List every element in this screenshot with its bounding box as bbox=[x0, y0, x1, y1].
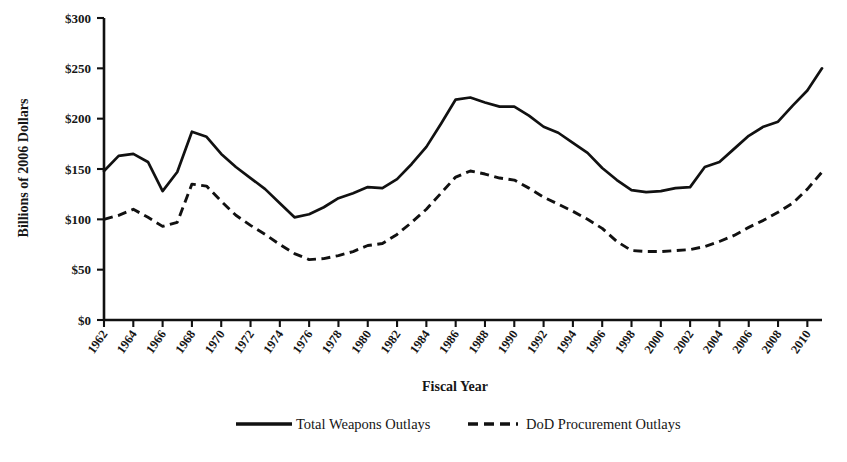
x-axis-tick-label: 2010 bbox=[788, 328, 814, 357]
series-line-total-weapons-outlays bbox=[104, 68, 822, 217]
x-axis-tick-label: 1996 bbox=[583, 328, 609, 357]
x-axis-tick-label: 1966 bbox=[143, 328, 169, 357]
x-axis-tick-label: 1976 bbox=[290, 328, 316, 357]
x-axis-tick-label: 1970 bbox=[202, 328, 228, 357]
x-axis-tick-label: 1998 bbox=[612, 328, 638, 357]
x-axis-tick-label: 2004 bbox=[700, 327, 726, 356]
x-axis-tick-label: 1964 bbox=[114, 327, 140, 356]
x-axis-tick-labels: 1962196419661968197019721974197619781980… bbox=[85, 327, 814, 356]
y-axis-tick-label: $200 bbox=[65, 111, 91, 126]
y-axis-tick-labels: $0$50$100$150$200$250$300 bbox=[65, 11, 91, 328]
x-axis-tick-label: 1982 bbox=[378, 328, 404, 357]
x-axis-tick-label: 2008 bbox=[759, 328, 785, 357]
series-line-dod-procurement-outlays bbox=[104, 171, 822, 260]
x-axis-tick-label: 2006 bbox=[729, 328, 755, 357]
x-axis-tick-label: 1962 bbox=[85, 328, 111, 357]
y-axis-tick-label: $100 bbox=[65, 212, 91, 227]
y-axis-tick-label: $150 bbox=[65, 162, 91, 177]
legend-label-dod-procurement-outlays: DoD Procurement Outlays bbox=[526, 416, 681, 432]
x-axis-tick-label: 1978 bbox=[319, 328, 345, 357]
legend-label-total-weapons-outlays: Total Weapons Outlays bbox=[296, 416, 431, 432]
x-axis-tick-label: 2000 bbox=[641, 328, 667, 357]
x-axis-tick-label: 1980 bbox=[348, 328, 374, 357]
x-axis-tick-label: 1988 bbox=[466, 328, 492, 357]
y-axis-tick-label: $50 bbox=[72, 262, 92, 277]
x-axis-tick-label: 2002 bbox=[671, 328, 697, 357]
x-axis-tick-label: 1992 bbox=[524, 328, 550, 357]
y-axis-tick-label: $0 bbox=[78, 313, 91, 328]
x-axis-tick-label: 1986 bbox=[436, 328, 462, 357]
chart-figure: $0$50$100$150$200$250$300 19621964196619… bbox=[0, 0, 847, 462]
x-axis-tick-label: 1974 bbox=[260, 327, 286, 356]
x-axis-tick-label: 1972 bbox=[231, 328, 257, 357]
x-axis-tick-label: 1990 bbox=[495, 328, 521, 357]
y-axis-title: Billions of 2006 Dollars bbox=[16, 98, 31, 237]
legend: Total Weapons Outlays DoD Procurement Ou… bbox=[236, 416, 681, 432]
x-axis-title: Fiscal Year bbox=[422, 379, 488, 394]
x-axis-tick-label: 1968 bbox=[173, 328, 199, 357]
x-axis-tick-label: 1994 bbox=[554, 327, 580, 356]
y-axis-tick-label: $300 bbox=[65, 11, 91, 26]
y-axis-tick-label: $250 bbox=[65, 61, 91, 76]
x-axis-tick-label: 1984 bbox=[407, 327, 433, 356]
